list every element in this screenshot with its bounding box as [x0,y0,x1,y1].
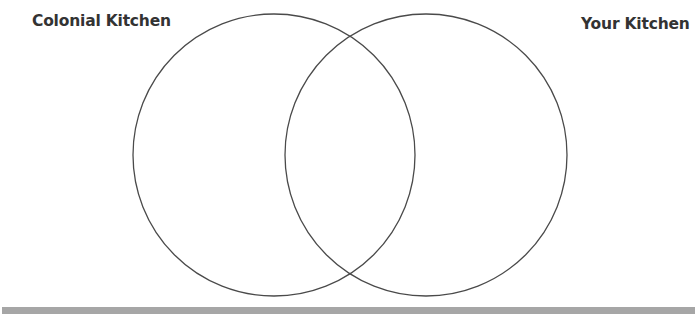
venn-diagram [0,0,695,323]
divider-bar [2,307,695,314]
circle-colonial-kitchen [133,14,415,296]
circle-your-kitchen [285,14,567,296]
